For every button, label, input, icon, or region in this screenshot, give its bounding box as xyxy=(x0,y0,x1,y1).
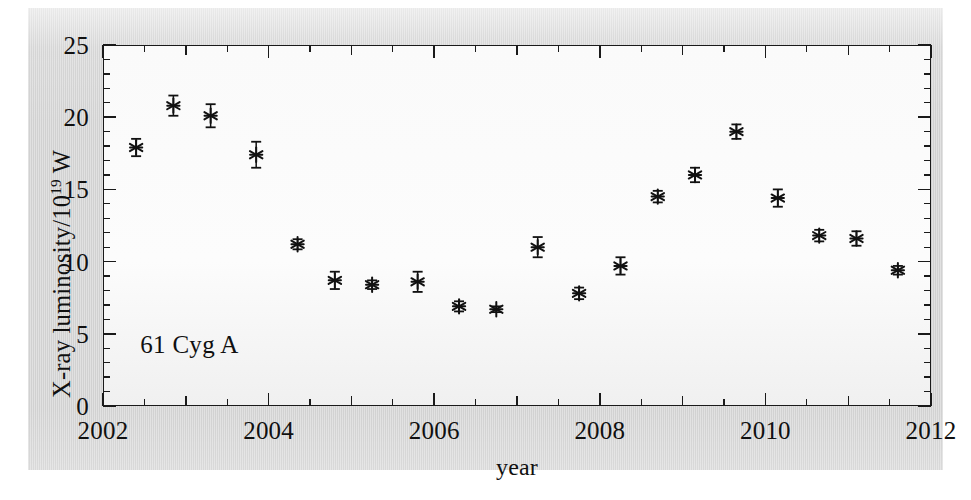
y-axis-title-text: X-ray luminosity/10 xyxy=(48,195,75,398)
x-tick-label: 2008 xyxy=(574,418,625,443)
x-tick-label: 2002 xyxy=(78,418,129,443)
data-point xyxy=(167,96,179,116)
data-point xyxy=(204,104,216,127)
y-tick-label: 20 xyxy=(64,105,89,130)
data-point-series xyxy=(130,96,904,317)
data-point xyxy=(652,189,664,203)
x-tick-label: 2006 xyxy=(409,418,460,443)
x-axis-minor-ticks xyxy=(144,45,889,406)
y-tick-label: 0 xyxy=(76,394,89,419)
data-point xyxy=(892,263,904,277)
data-point xyxy=(573,286,585,300)
y-tick-label: 5 xyxy=(76,321,89,346)
data-point xyxy=(614,257,626,274)
data-point xyxy=(453,299,465,313)
data-point xyxy=(850,231,862,245)
series-annotation-label: 61 Cyg A xyxy=(140,331,238,359)
x-axis-title: year xyxy=(496,454,538,481)
data-point xyxy=(130,139,142,156)
data-point xyxy=(772,189,784,206)
y-axis-title-unit: W xyxy=(48,150,75,179)
data-point xyxy=(689,168,701,182)
figure-root: 200220042006200820102012 0510152025 X-ra… xyxy=(0,0,971,500)
y-axis-title: X-ray luminosity/1019 W xyxy=(48,150,76,398)
x-tick-label: 2012 xyxy=(906,418,957,443)
data-point xyxy=(366,278,378,292)
data-point xyxy=(411,272,423,292)
y-axis-title-exponent: 19 xyxy=(47,179,64,195)
data-point xyxy=(730,124,742,138)
data-point xyxy=(291,237,303,251)
data-point xyxy=(250,142,262,168)
x-tick-label: 2004 xyxy=(243,418,294,443)
plot-svg-canvas xyxy=(0,0,971,500)
y-tick-label: 25 xyxy=(64,33,89,58)
data-point xyxy=(490,302,502,316)
data-point xyxy=(531,237,543,257)
data-point xyxy=(329,272,341,289)
x-tick-label: 2010 xyxy=(740,418,791,443)
data-point xyxy=(813,228,825,242)
